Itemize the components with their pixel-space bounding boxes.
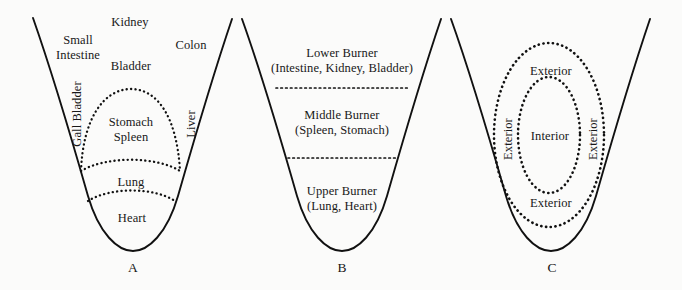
label-exterior-bottom: Exterior [530,196,572,210]
label-small-intestine: Small Intestine [56,33,100,62]
figure-canvas: Kidney Small Intestine Bladder Colon Gal… [0,0,682,290]
panel-a-lung-upper-boundary [81,160,180,171]
zone-middle-burner-title: Middle Burner [295,108,389,123]
zone-lower-burner-title: Lower Burner [271,46,413,61]
label-small-intestine-line2: Intestine [56,47,100,62]
zone-lower-burner-contents: (Intestine, Kidney, Bladder) [271,60,413,75]
label-gall-bladder: Gall Bladder [70,81,84,146]
label-stomach-spleen: Stomach Spleen [109,115,153,144]
zone-middle-burner-label: Middle Burner (Spleen, Stomach) [295,108,389,137]
zone-upper-burner-label: Upper Burner (Lung, Heart) [307,184,377,213]
zone-upper-burner-contents: (Lung, Heart) [307,198,377,213]
zone-upper-burner-title: Upper Burner [307,184,377,199]
panel-letter-b: B [337,261,346,275]
label-lung: Lung [118,175,145,189]
label-exterior-left: Exterior [501,118,515,160]
label-spleen: Spleen [109,129,153,144]
zone-lower-burner-label: Lower Burner (Intestine, Kidney, Bladder… [271,46,413,75]
label-heart: Heart [118,211,146,225]
label-kidney: Kidney [111,15,148,29]
label-exterior-top: Exterior [530,64,572,78]
diagram-svg [0,0,682,290]
panel-letter-c: C [547,261,556,275]
label-stomach: Stomach [109,115,153,130]
label-interior: Interior [531,129,569,143]
label-small-intestine-line1: Small [56,33,100,48]
panel-a-heart-boundary [88,191,175,202]
label-liver: Liver [184,110,198,138]
panel-letter-a: A [128,261,138,275]
label-exterior-right: Exterior [586,118,600,160]
label-bladder: Bladder [111,59,151,73]
zone-middle-burner-contents: (Spleen, Stomach) [295,122,389,137]
label-colon: Colon [175,38,206,52]
